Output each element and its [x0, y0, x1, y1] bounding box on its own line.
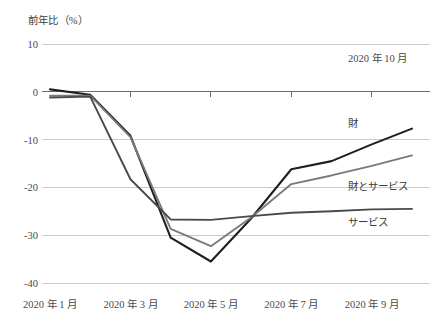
y-axis-tick-label: -30 [8, 230, 38, 241]
series-label-services: サービス [348, 214, 388, 229]
chart-plot-area [0, 0, 433, 323]
gridlines [42, 44, 430, 283]
x-axis-ticks [130, 92, 371, 97]
series-label-goods: 財 [348, 115, 358, 130]
x-axis-tick-label: 2020 年 1 月 [23, 296, 77, 311]
chart-container: 前年比（%） 100-10-20-30-40 2020 年 1 月2020 年 … [0, 0, 433, 323]
y-axis-tick-label: -20 [8, 182, 38, 193]
y-axis-tick-label: 0 [8, 86, 38, 97]
y-axis-tick-label: 10 [8, 39, 38, 50]
x-axis-tick-label: 2020 年 7 月 [264, 296, 318, 311]
latest-period-annotation: 2020 年 10 月 [348, 50, 407, 65]
series-label-goods-and-services: 財とサービス [348, 178, 408, 193]
x-axis-tick-label: 2020 年 9 月 [345, 296, 399, 311]
y-axis-tick-label: -10 [8, 134, 38, 145]
x-axis-tick-label: 2020 年 5 月 [184, 296, 238, 311]
y-axis-tick-label: -40 [8, 278, 38, 289]
x-axis-tick-label: 2020 年 3 月 [103, 296, 157, 311]
